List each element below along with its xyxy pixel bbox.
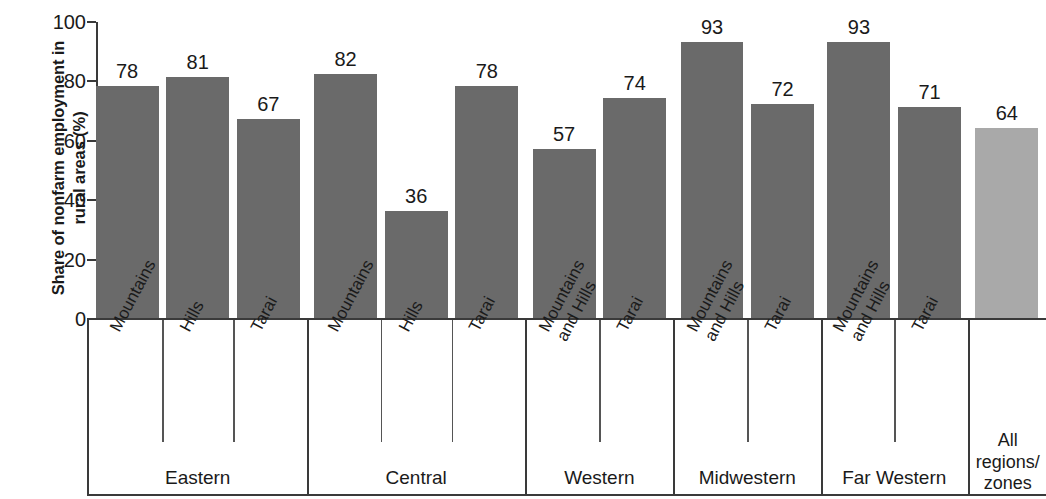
bar-midwestern-tarai-value-label: 72 — [751, 79, 814, 99]
category-separator-2 — [233, 320, 235, 442]
category-separator-4 — [381, 320, 383, 442]
x-axis-label-table: MountainsHillsTaraiMountainsHillsTaraiMo… — [87, 320, 1046, 498]
category-separator-11 — [894, 320, 896, 442]
y-axis-tick-label-0: 0 — [24, 309, 86, 329]
all-column-line3: zones — [984, 473, 1032, 493]
region-label-eastern: Eastern — [86, 467, 310, 489]
all-column-line2: regions/ — [976, 452, 1040, 472]
bar-eastern-hills-value-label: 81 — [166, 52, 229, 72]
y-axis-tick-label-100: 100 — [24, 12, 86, 32]
region-label-all-regions-zones: Allregions/zones — [961, 430, 1046, 494]
bar-farwestern-tarai — [898, 107, 961, 318]
y-axis-tick-labels: 100806040200 — [24, 22, 86, 319]
bar-eastern-tarai — [237, 119, 300, 318]
region-label-far-western: Far Western — [817, 467, 971, 489]
y-axis-tick-label-20: 20 — [24, 250, 86, 270]
all-column-line1: All — [998, 430, 1018, 450]
category-separator-5 — [452, 320, 454, 442]
bar-central-tarai-value-label: 78 — [455, 61, 518, 81]
bar-all-regions-zones-value-label: 64 — [975, 103, 1038, 123]
category-separator-7 — [599, 320, 601, 442]
bar-midwestern-mountains-and-hills-value-label: 93 — [681, 17, 744, 37]
bar-chart: Share of nonfarm employment in rural are… — [0, 0, 1046, 499]
y-axis-tick-label-40: 40 — [24, 190, 86, 210]
region-label-midwestern: Midwestern — [671, 467, 825, 489]
category-separator-9 — [747, 320, 749, 442]
x-axis-bottom-border — [87, 494, 1046, 496]
bar-farwestern-mountains-and-hills-value-label: 93 — [827, 17, 890, 37]
bar-farwestern-tarai-value-label: 71 — [898, 82, 961, 102]
bar-western-tarai — [603, 98, 666, 318]
region-label-western: Western — [523, 467, 677, 489]
bar-western-tarai-value-label: 74 — [603, 73, 666, 93]
bar-eastern-mountains-value-label: 78 — [96, 61, 159, 81]
bar-western-mountains-and-hills-value-label: 57 — [533, 124, 596, 144]
bar-central-hills-value-label: 36 — [385, 186, 448, 206]
category-separator-1 — [162, 320, 164, 442]
bar-midwestern-tarai — [751, 104, 814, 318]
bar-all-regions-zones — [975, 128, 1038, 318]
y-axis-tick-label-80: 80 — [24, 71, 86, 91]
bar-eastern-hills — [166, 77, 229, 318]
bar-central-mountains-value-label: 82 — [314, 49, 377, 69]
region-label-central: Central — [304, 467, 528, 489]
y-axis-tick-label-60: 60 — [24, 131, 86, 151]
y-axis-tick-100 — [87, 21, 96, 23]
bar-eastern-tarai-value-label: 67 — [237, 94, 300, 114]
bar-central-tarai — [455, 86, 518, 318]
